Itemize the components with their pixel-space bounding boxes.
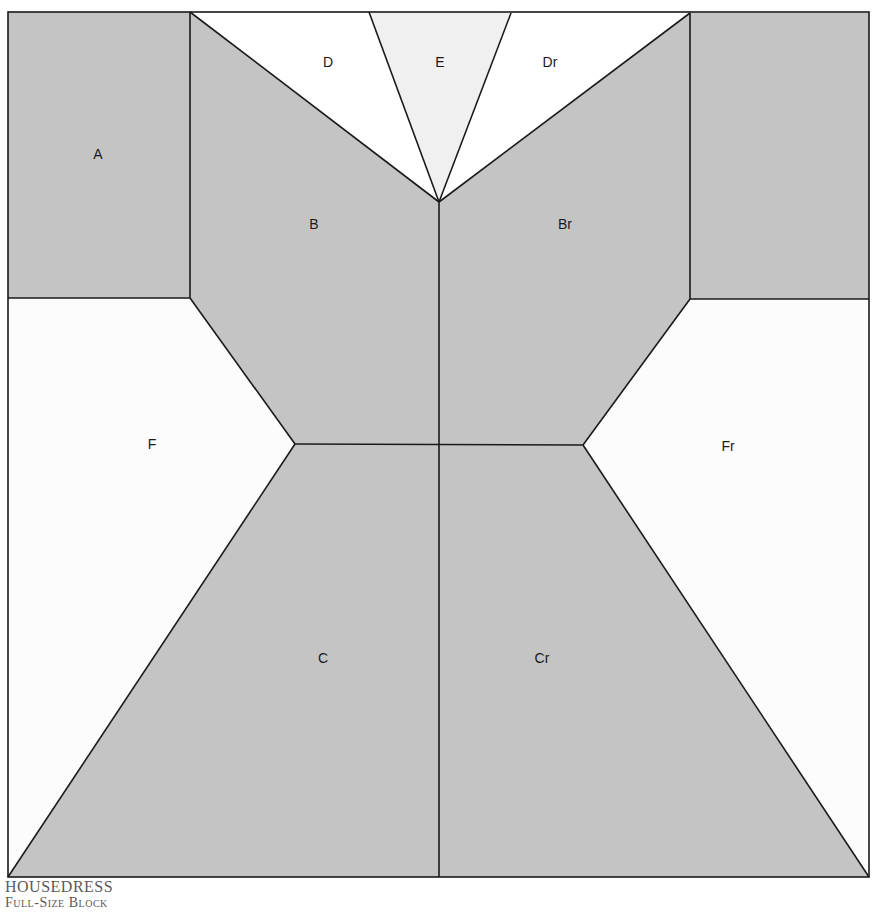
label-Fr: Fr [721,438,735,454]
label-E: E [435,54,444,70]
label-F: F [148,436,157,452]
label-Dr: Dr [543,54,558,70]
label-C: C [318,650,328,666]
block-title: HOUSEDRESS [5,879,113,895]
label-B: B [309,216,318,232]
label-Br: Br [558,216,572,232]
block-subtitle: Full-Size Block [5,896,108,910]
label-D: D [323,54,333,70]
housedress-block-diagram: A B Br C Cr D Dr E F Fr [0,0,877,880]
label-A: A [93,146,103,162]
piece-A-right [690,13,869,299]
label-Cr: Cr [535,650,550,666]
seam-waist [295,444,583,445]
